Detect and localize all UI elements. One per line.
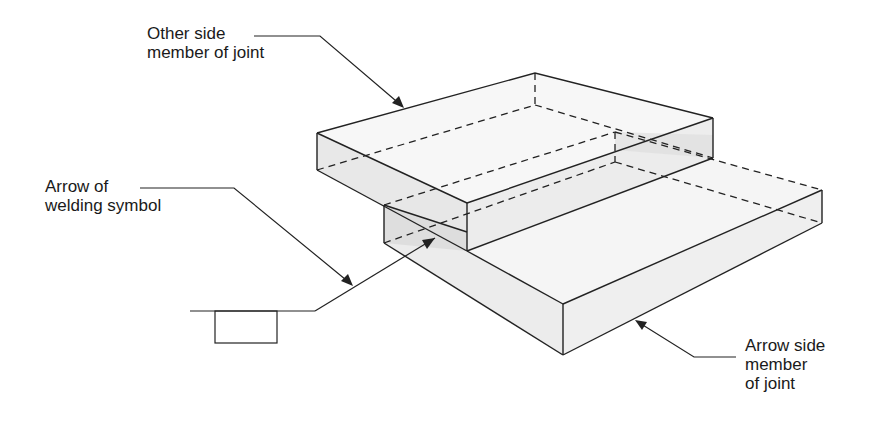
label-arrow-of-welding-symbol: Arrow of welding symbol bbox=[45, 177, 161, 215]
leader-arrow-side-arrowhead-icon bbox=[635, 320, 647, 330]
leader-arrow-of-symbol-arrowhead-icon bbox=[341, 274, 353, 286]
leader-arrow-side bbox=[635, 320, 736, 357]
welding-symbol bbox=[190, 238, 435, 343]
label-arrow-side-member: Arrow side member of joint bbox=[745, 336, 825, 393]
label-other-side-member: Other side member of joint bbox=[147, 24, 264, 62]
leader-other-side bbox=[254, 36, 404, 108]
square-groove-symbol bbox=[215, 311, 277, 343]
leader-other-side-arrowhead-icon bbox=[392, 96, 404, 108]
leader-arrow-of-symbol bbox=[140, 188, 353, 286]
symbol-arrow-line bbox=[315, 238, 435, 311]
